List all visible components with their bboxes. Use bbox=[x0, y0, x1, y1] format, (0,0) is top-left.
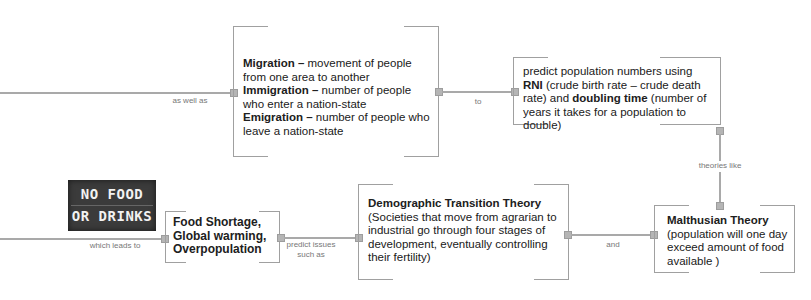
no-food-sign-image: NO FOOD OR DRINKS bbox=[68, 180, 156, 231]
connector-label-predict-issues: predict issues such as bbox=[285, 240, 337, 260]
demographic-title: Demographic Transition Theory bbox=[368, 197, 541, 209]
node-demographic-transition[interactable]: Demographic Transition Theory (Societies… bbox=[358, 184, 569, 280]
node-malthusian[interactable]: Malthusian Theory (population will one d… bbox=[654, 205, 795, 273]
connector-line-theories-2 bbox=[719, 172, 721, 204]
connector-label-as-well-as: as well as bbox=[160, 96, 220, 106]
connector-line-to bbox=[442, 91, 514, 93]
term-doubling-time: doubling time bbox=[572, 92, 647, 104]
demographic-body: (Societies that move from agrarian to in… bbox=[368, 211, 557, 264]
term-migration: Migration – bbox=[243, 57, 304, 69]
connector-line-top bbox=[0, 92, 232, 94]
term-emigration: Emigration – bbox=[243, 111, 313, 123]
malthusian-body: (population will one day exceed amount o… bbox=[667, 228, 787, 267]
connector-label-and: and bbox=[598, 240, 628, 250]
node-issues[interactable]: Food Shortage, Global warming, Overpopul… bbox=[165, 211, 280, 263]
connector-label-to: to bbox=[458, 97, 498, 107]
connector-line-predict-issues bbox=[284, 237, 356, 239]
term-immigration: Immigration – bbox=[243, 84, 318, 96]
connector-line-bottom bbox=[0, 238, 163, 240]
node-predict-population[interactable]: predict population numbers using RNI (cr… bbox=[513, 57, 721, 125]
issues-title: Food Shortage, Global warming, Overpopul… bbox=[173, 216, 278, 257]
malthusian-title: Malthusian Theory bbox=[667, 214, 769, 226]
connector-label-theories-like: theories like bbox=[690, 161, 750, 171]
sign-line-1: NO FOOD bbox=[68, 186, 156, 203]
term-rni: RNI bbox=[523, 79, 543, 91]
sign-line-2: OR DRINKS bbox=[71, 205, 153, 225]
connector-line-and bbox=[571, 234, 653, 236]
connector-line-theories bbox=[719, 134, 721, 161]
predict-text: predict population numbers using bbox=[523, 65, 692, 77]
node-migration[interactable]: Migration – movement of people from one … bbox=[233, 26, 439, 157]
connector-label-which-leads-to: which leads to bbox=[80, 241, 150, 251]
